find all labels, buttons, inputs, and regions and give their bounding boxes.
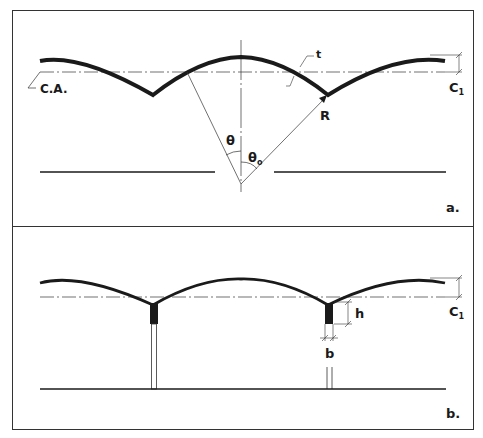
ca-leader [28,72,40,88]
radius-arrowhead [319,95,327,103]
panel-b-label: b. [446,407,460,420]
theta0-label: θo [248,151,262,167]
h-label: h [355,307,364,320]
edge-beam-left [150,303,158,324]
edge-beam-right [325,303,333,324]
ca-label: C.A. [40,83,67,95]
theta-arc [226,151,241,155]
panel-b [40,275,462,389]
t-leader-top [300,56,314,67]
panel-a [28,40,462,192]
column-left [152,324,157,389]
radius-line-R [241,97,326,184]
thickness-label: t [316,49,321,60]
t-leader-bottom [286,76,294,86]
b-label: b [325,347,334,360]
theta-label: θ [226,134,235,147]
shell-arcs-b [40,279,445,305]
shell-roof-diagram [0,0,483,438]
c1-label-a: C1 [449,81,464,97]
theta-radius-line [187,72,241,184]
panel-a-label: a. [446,201,460,214]
c1-label-b: C1 [449,305,464,321]
figure-frame [13,11,474,430]
shell-arcs [40,57,445,95]
radius-label: R [320,109,330,122]
